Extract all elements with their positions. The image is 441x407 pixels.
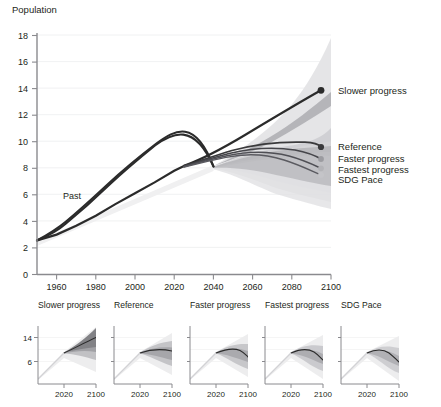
- y-axis-ticks: [32, 36, 37, 275]
- sm-y-tick-14: 14: [23, 334, 32, 343]
- small-multiple-panel-reference: 2020 2100: [111, 326, 181, 399]
- sm1-x-tick-2100: 2100: [163, 390, 181, 399]
- legend-label-reference[interactable]: Reference: [338, 141, 382, 152]
- y-tick-4: 4: [23, 217, 28, 227]
- y-tick-0: 0: [23, 270, 28, 280]
- x-tick-2060: 2060: [243, 282, 263, 292]
- y-tick-8: 8: [23, 163, 28, 173]
- series-line-past: [37, 131, 214, 240]
- legend-label-fastest[interactable]: Fastest progress: [338, 164, 409, 175]
- panel-title-reference: Reference: [114, 300, 154, 310]
- series-line-past-main: [37, 134, 214, 240]
- panel-title-fastest: Fastest progress: [265, 300, 329, 310]
- x-tick-1960: 1960: [47, 282, 67, 292]
- past-annotation: Past: [63, 191, 82, 201]
- x-tick-2100: 2100: [321, 282, 341, 292]
- dot-slower: [318, 87, 325, 94]
- y-tick-16: 16: [18, 57, 28, 67]
- panel-title-sdg: SDG Pace: [341, 300, 382, 310]
- y-tick-2: 2: [23, 243, 28, 253]
- sm0-x-tick-2020: 2020: [55, 390, 73, 399]
- x-axis-ticks: [57, 275, 331, 280]
- y-tick-18: 18: [18, 31, 28, 41]
- small-multiple-panel-slower: 2020 2100: [34, 326, 105, 399]
- x-axis-tick-labels: 1960 1980 2000 2020 2040 2060 2080 2100: [47, 282, 341, 292]
- small-multiple-panel-sdg: 2020 2100: [338, 326, 408, 399]
- population-projection-figure: Population: [0, 0, 441, 407]
- small-multiples: Slower progress Reference Faster progres…: [23, 300, 408, 399]
- sm1-x-tick-2020: 2020: [131, 390, 149, 399]
- legend-label-sdg[interactable]: SDG Pace: [338, 174, 383, 185]
- small-multiple-panel-faster: 2020 2100: [187, 326, 257, 399]
- y-tick-10: 10: [18, 137, 28, 147]
- dot-faster: [318, 156, 324, 162]
- panel-title-faster: Faster progress: [190, 300, 250, 310]
- legend: Slower progress Reference Faster progres…: [338, 85, 409, 186]
- y-tick-12: 12: [18, 110, 28, 120]
- small-multiple-panel-fastest: 2020 2100: [262, 326, 332, 399]
- dot-sdg: [318, 172, 324, 178]
- chart-canvas: 0 2 4 6 8 10 12 14 16 18: [0, 0, 441, 407]
- sm2-x-tick-2100: 2100: [239, 390, 257, 399]
- sm3-x-tick-2020: 2020: [282, 390, 300, 399]
- legend-label-slower[interactable]: Slower progress: [338, 85, 407, 96]
- small-multiple-titles: Slower progress Reference Faster progres…: [38, 300, 382, 310]
- x-tick-2020: 2020: [164, 282, 184, 292]
- legend-label-faster[interactable]: Faster progress: [338, 153, 405, 164]
- x-tick-2000: 2000: [125, 282, 145, 292]
- sm0-x-tick-2100: 2100: [87, 390, 105, 399]
- dot-reference: [318, 144, 324, 150]
- panel-title-slower: Slower progress: [38, 300, 100, 310]
- sm3-x-tick-2100: 2100: [314, 390, 332, 399]
- y-axis-title: Population: [12, 4, 57, 15]
- sm2-x-tick-2020: 2020: [207, 390, 225, 399]
- y-axis-tick-labels: 0 2 4 6 8 10 12 14 16 18: [18, 31, 28, 280]
- dot-fastest: [318, 165, 324, 171]
- small-multiple-y-labels: 14 6: [23, 334, 32, 367]
- main-plot: 0 2 4 6 8 10 12 14 16 18: [18, 31, 409, 292]
- x-tick-1980: 1980: [86, 282, 106, 292]
- y-tick-14: 14: [18, 84, 28, 94]
- past-uncertainty-band: [37, 165, 214, 246]
- sm4-x-tick-2020: 2020: [358, 390, 376, 399]
- x-tick-2080: 2080: [282, 282, 302, 292]
- uncertainty-fans: [214, 38, 332, 209]
- sm-y-tick-6: 6: [28, 358, 33, 367]
- y-tick-6: 6: [23, 190, 28, 200]
- sm4-x-tick-2100: 2100: [390, 390, 408, 399]
- x-tick-2040: 2040: [203, 282, 223, 292]
